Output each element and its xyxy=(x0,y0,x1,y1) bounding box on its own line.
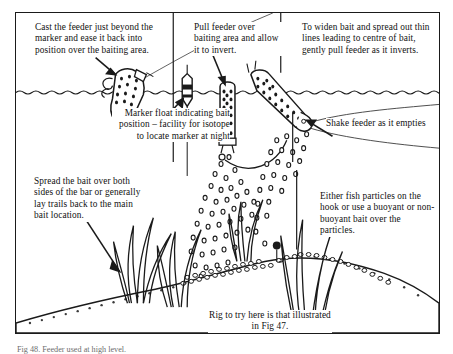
annotation-rig: Rig to try here is that illustrated in F… xyxy=(208,310,332,333)
annotation-cast: Cast the feeder just beyond the marker a… xyxy=(35,22,153,56)
annotation-either: Either fish particles on the hook or use… xyxy=(320,191,438,237)
annotation-shake: Shake feeder as it empties xyxy=(326,118,436,129)
annotation-spread: Spread the bait over both sides of the b… xyxy=(34,176,144,222)
figure-caption: Fig 48. Feeder used at high level. xyxy=(17,345,317,354)
annotation-marker-float: Marker float indicating bait position – … xyxy=(112,108,230,142)
feeder-inverting-icon xyxy=(247,61,439,148)
figure-container: Cast the feeder just beyond the marker a… xyxy=(0,0,453,354)
annotation-pull: Pull feeder over baiting area and allow … xyxy=(194,22,282,56)
illustration-frame: Cast the feeder just beyond the marker a… xyxy=(15,12,440,334)
line-art-illustration xyxy=(16,13,439,333)
annotation-widen: To widen bait and spread out thin lines … xyxy=(302,22,438,56)
